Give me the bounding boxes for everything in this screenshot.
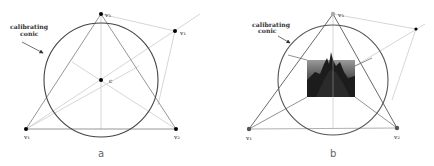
- label-v2-b: v₂: [393, 133, 400, 140]
- vertex-v1-a: [24, 127, 28, 131]
- callout-label-a-line2: conic: [20, 30, 39, 37]
- panel-b: calibrating conic v₃ v₁ v₂ b: [245, 11, 425, 159]
- vertex-v4-b: [414, 27, 417, 30]
- label-v3-a: v₃: [104, 11, 111, 18]
- cathedral-image: [307, 52, 355, 97]
- vertex-v2-a: [174, 127, 178, 131]
- callout-label-b-line2: conic: [258, 27, 277, 34]
- arrow-icon: [278, 36, 290, 43]
- vertex-v3-a: [99, 12, 103, 16]
- vertex-v4-a: [173, 29, 177, 33]
- label-v1-b: v₁: [245, 134, 252, 141]
- label-v4-a: v₁: [179, 29, 186, 36]
- label-v2-a: v₂: [173, 133, 180, 140]
- caption-a: a: [98, 148, 104, 159]
- panel-a: calibrating conic v₃ v₁ v₁ v₂ c a: [10, 11, 200, 159]
- vertex-v3-b: [331, 12, 335, 16]
- caption-b: b: [330, 148, 336, 159]
- figure: calibrating conic v₃ v₁ v₁ v₂ c a: [0, 0, 434, 166]
- vertex-v2-b: [395, 126, 399, 130]
- label-v3-b: v₃: [337, 11, 344, 18]
- center-c-a: [99, 78, 103, 82]
- arrow-icon: [22, 42, 43, 53]
- label-v1-a: v₁: [23, 133, 30, 140]
- vertex-v1-b: [247, 127, 251, 131]
